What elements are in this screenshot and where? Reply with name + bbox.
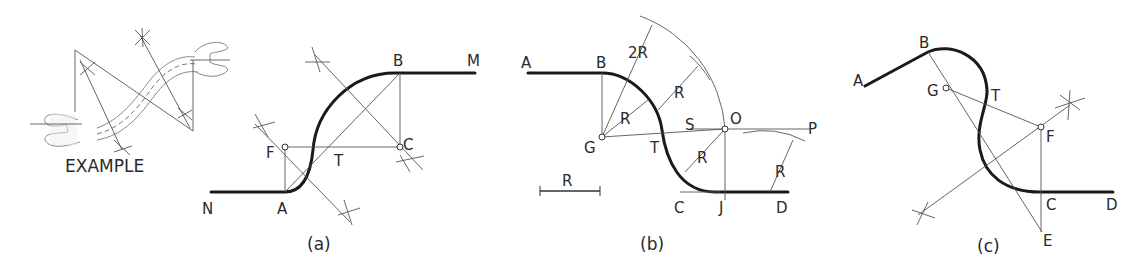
label-2r: 2R bbox=[628, 44, 648, 62]
point-f-c bbox=[1038, 124, 1044, 130]
label-r: R bbox=[674, 84, 684, 102]
ogee-curve-c bbox=[865, 49, 1113, 192]
label-c: C bbox=[1046, 196, 1056, 214]
example-wrench: EXAMPLE bbox=[30, 28, 230, 176]
label-s: S bbox=[685, 116, 695, 134]
label-m: M bbox=[467, 52, 480, 70]
label-e: E bbox=[1043, 232, 1052, 250]
point-g-b bbox=[599, 134, 605, 140]
label-b: B bbox=[393, 52, 403, 70]
label-a: A bbox=[277, 200, 288, 218]
label-b: B bbox=[596, 54, 606, 72]
panel-b: A B 2R R R S O P G T R R R C J D (b) bbox=[521, 16, 817, 254]
point-g-c bbox=[943, 85, 949, 91]
caption-b: (b) bbox=[640, 234, 664, 254]
point-f-a bbox=[282, 144, 288, 150]
example-caption: EXAMPLE bbox=[65, 156, 144, 176]
label-d: D bbox=[776, 199, 788, 217]
label-p: P bbox=[808, 120, 817, 138]
label-t: T bbox=[990, 87, 1001, 105]
label-f: F bbox=[1046, 128, 1055, 146]
label-t: T bbox=[649, 139, 660, 157]
label-g: G bbox=[584, 139, 596, 157]
ogee-curve-figure: EXAMPLE N A F T B C M (a) bbox=[0, 0, 1147, 272]
label-d: D bbox=[1106, 196, 1118, 214]
label-r: R bbox=[697, 149, 707, 167]
label-f: F bbox=[266, 144, 275, 162]
label-c: C bbox=[674, 199, 684, 217]
label-g: G bbox=[927, 82, 939, 100]
caption-c: (c) bbox=[977, 236, 1000, 256]
label-j: J bbox=[718, 199, 723, 217]
point-o-b bbox=[722, 126, 728, 132]
label-r-scale: R bbox=[562, 172, 572, 190]
label-b: B bbox=[919, 34, 929, 52]
label-r: R bbox=[775, 163, 785, 181]
label-t: T bbox=[333, 152, 344, 170]
label-a: A bbox=[521, 54, 532, 72]
label-o: O bbox=[730, 110, 742, 128]
panel-a: N A F T B C M (a) bbox=[202, 47, 480, 254]
caption-a: (a) bbox=[307, 234, 331, 254]
label-r: R bbox=[620, 110, 630, 128]
panel-c: A B G T F C D E (c) bbox=[853, 34, 1118, 256]
label-a: A bbox=[853, 72, 864, 90]
label-n: N bbox=[202, 200, 213, 218]
label-c: C bbox=[403, 136, 413, 154]
